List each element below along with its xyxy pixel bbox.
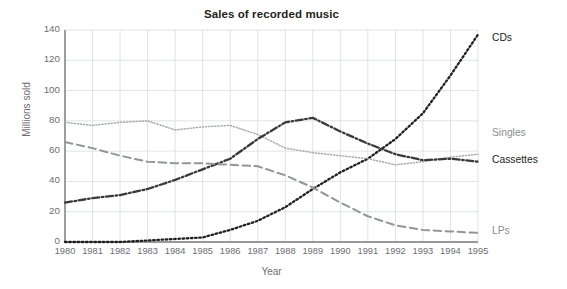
x-tick-1995: 1995 [460, 246, 496, 256]
series-label-lps: LPs [492, 225, 510, 236]
chart-figure: Sales of recorded music Millions sold 02… [0, 0, 567, 289]
series-label-cds: CDs [492, 32, 512, 43]
axis-lines [65, 30, 478, 242]
x-axis-tick-labels: 1980198119821983198419851986198719881989… [47, 246, 497, 260]
series-label-cassettes: Cassettes [492, 154, 538, 165]
series-lines [65, 35, 478, 242]
series-label-singles: Singles [492, 127, 526, 138]
x-axis-label: Year [65, 266, 478, 277]
gridlines [65, 30, 478, 242]
